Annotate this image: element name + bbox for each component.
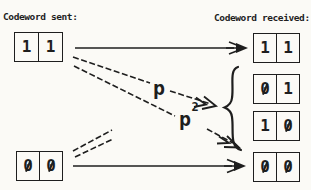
bit-cell: 1 [38, 33, 62, 61]
bit-cell: 1 [276, 75, 299, 103]
sent-codeword-00: 0 0 [16, 151, 63, 181]
bit-cell: 1 [254, 112, 276, 140]
arrow-11-to-11 [75, 42, 248, 54]
bit-cell: 0 [276, 112, 299, 140]
bit-cell: 0 [254, 153, 276, 181]
received-codeword-11: 1 1 [253, 33, 300, 63]
sent-codeword-11: 1 1 [14, 32, 63, 62]
bit-cell: 1 [276, 34, 299, 62]
received-codeword-01: 0 1 [253, 74, 300, 104]
group-brace-icon [225, 67, 242, 150]
arrow-00-to-00 [73, 160, 246, 173]
codeword-channel-diagram: Codeword sent: Codeword received: 1 1 0 … [0, 0, 311, 190]
probability-p-label: p [153, 77, 165, 98]
received-codeword-00: 0 0 [253, 152, 300, 182]
bit-cell: 1 [15, 33, 38, 61]
bit-cell: 0 [254, 75, 276, 103]
bit-cell: 0 [17, 152, 39, 180]
sent-header-label: Codeword sent: [3, 11, 77, 22]
received-header-label: Codeword received: [214, 12, 310, 23]
edge-00-upward-stubs [73, 130, 113, 157]
bit-cell: 1 [254, 34, 276, 62]
bit-cell: 0 [39, 152, 62, 180]
received-codeword-10: 1 0 [253, 111, 300, 141]
bit-cell: 0 [276, 153, 299, 181]
probability-p-squared-label: p2 [179, 108, 198, 129]
